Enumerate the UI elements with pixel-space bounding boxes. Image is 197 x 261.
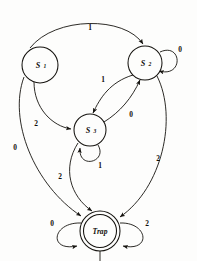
- edge-s3-self-loop: [80, 145, 100, 161]
- edge-label-trap-self-0: 0: [50, 219, 54, 228]
- state-label-s3: S: [86, 126, 91, 135]
- edge-label-s1-s2: 1: [88, 23, 92, 32]
- state-node-s3[interactable]: S 3: [74, 114, 106, 146]
- state-node-s2[interactable]: S 2: [128, 46, 162, 80]
- edge-s2-to-s3: [93, 75, 133, 113]
- edge-s3-to-s2: [104, 80, 140, 122]
- state-subscript-s2: 2: [148, 61, 152, 67]
- edge-label-s2-s3: 1: [101, 75, 105, 84]
- edge-label-s3-s2: 0: [129, 110, 133, 119]
- edge-label-s3-self: 1: [98, 161, 102, 170]
- state-label-s1: S: [36, 61, 41, 70]
- state-label-s2: S: [141, 59, 146, 68]
- state-subscript-s3: 3: [93, 128, 97, 134]
- state-label-trap: Trap: [93, 227, 108, 236]
- edge-s2-to-trap: [120, 76, 166, 217]
- state-node-trap[interactable]: Trap: [80, 211, 120, 251]
- edge-trap-self-loop-2: [120, 223, 143, 247]
- state-subscript-s1: 1: [44, 63, 47, 69]
- automaton-svg: S 1 S 2 S 3 Trap 1 2 0 0 1 0 2 1 2 0: [0, 0, 197, 261]
- edge-s1-to-s3: [34, 82, 71, 129]
- edge-label-s1-s3: 2: [34, 119, 38, 128]
- edge-label-s1-trap: 0: [13, 143, 17, 152]
- edge-label-s3-trap: 2: [58, 172, 62, 181]
- state-node-s1[interactable]: S 1: [22, 47, 58, 83]
- edge-label-trap-self-2: 2: [145, 219, 149, 228]
- state-diagram-canvas: S 1 S 2 S 3 Trap 1 2 0 0 1 0 2 1 2 0: [0, 0, 197, 261]
- edge-s1-to-trap: [19, 77, 81, 216]
- edge-label-s2-trap: 2: [156, 154, 160, 163]
- edge-trap-self-loop-0: [57, 223, 81, 247]
- edge-label-s2-self: 0: [178, 45, 182, 54]
- edge-s3-to-trap: [70, 143, 92, 211]
- edge-s1-to-s2: [30, 23, 143, 48]
